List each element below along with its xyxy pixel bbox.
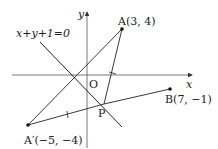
segment-aprime-p — [28, 104, 104, 125]
line-equation-label: x+y+1=0 — [16, 27, 70, 40]
x-axis-label: x — [186, 78, 193, 91]
point-aprime-label: A′(−5, −4) — [23, 134, 82, 147]
point-p-label: P — [98, 107, 106, 120]
point-a-label: A(3, 4) — [117, 15, 156, 28]
origin-label: O — [89, 78, 98, 91]
segment-a-p — [104, 29, 122, 104]
point-aprime — [26, 123, 30, 127]
segment-a-aprime — [28, 29, 122, 125]
tick-mark-aprime-p — [67, 111, 68, 118]
point-b-label: B(7, −1) — [165, 93, 212, 106]
point-b — [168, 87, 172, 91]
tick-mark-ap — [109, 72, 116, 74]
segment-p-b — [104, 89, 170, 104]
diagram-canvas: y x O x+y+1=0 A(3, 4) B(7, −1) A′(−5, −4… — [0, 0, 218, 149]
y-axis-label: y — [77, 8, 85, 21]
line-x-plus-y-plus-1 — [40, 42, 122, 127]
